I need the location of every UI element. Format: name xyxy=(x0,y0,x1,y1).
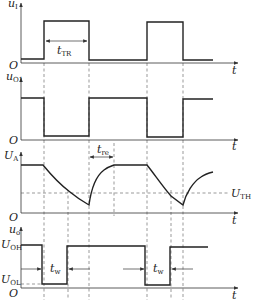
t-axis-label: t xyxy=(232,64,237,77)
timing-diagram: uI O t tTR uO1 O t UA O t UTH tre uo O t… xyxy=(0,0,254,301)
uth-label: UTH xyxy=(231,187,251,201)
ua-axis-label: UA xyxy=(4,149,19,163)
panel-uo1: uO1 O t xyxy=(6,70,238,153)
t-axis-label: t xyxy=(232,289,237,301)
tre-label: tre xyxy=(97,143,109,157)
uo1-axis-label: uO1 xyxy=(6,70,23,84)
uo-axis-label: uo xyxy=(9,223,20,237)
panel-ui: uI O t tTR xyxy=(8,0,238,77)
ttr-label: tTR xyxy=(57,44,72,58)
ui-waveform xyxy=(21,21,213,60)
origin-label: O xyxy=(9,134,18,147)
ui-axis-label: uI xyxy=(8,0,18,11)
t-axis-label: t xyxy=(232,214,237,227)
uo1-waveform xyxy=(21,98,213,137)
origin-label: O xyxy=(9,287,18,300)
uol-label: UOL xyxy=(1,273,21,287)
tw1-label: tw xyxy=(50,262,60,276)
t-axis-label: t xyxy=(232,140,237,153)
ua-waveform xyxy=(21,165,213,205)
tw2-label: tw xyxy=(153,262,163,276)
panel-ua: UA O t UTH tre xyxy=(4,143,251,227)
panel-uo: uo O t UOH UOL tw tw xyxy=(1,223,238,301)
uoh-label: UOH xyxy=(1,238,22,252)
